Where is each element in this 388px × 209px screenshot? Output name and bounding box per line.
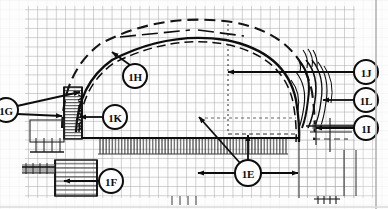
- floor-hatched-band: [98, 138, 288, 154]
- drawing-canvas: 1G1H1K1F1E1J1L1I: [0, 0, 388, 209]
- callout-label-1l: 1L: [360, 95, 372, 107]
- callout-1h[interactable]: 1H: [123, 64, 147, 88]
- callout-1l[interactable]: 1L: [354, 88, 378, 112]
- callout-label-1e: 1E: [242, 168, 254, 180]
- callout-1f[interactable]: 1F: [99, 169, 123, 193]
- lower-left-detail-cluster: [22, 163, 55, 174]
- foundation-block: [55, 160, 97, 196]
- lower-right-grid: [299, 140, 377, 198]
- callout-1i[interactable]: 1I: [354, 116, 378, 140]
- callout-1g[interactable]: 1G: [0, 98, 18, 122]
- callout-label-1g: 1G: [0, 105, 13, 117]
- callout-label-1i: 1I: [361, 123, 370, 135]
- callout-label-1j: 1J: [361, 67, 372, 79]
- technical-drawing-figure: 1G1H1K1F1E1J1L1I: [0, 0, 388, 209]
- callout-1e[interactable]: 1E: [235, 160, 261, 186]
- callout-1k[interactable]: 1K: [103, 105, 127, 129]
- callout-1j[interactable]: 1J: [354, 60, 378, 84]
- callout-label-1k: 1K: [108, 112, 122, 124]
- callout-label-1f: 1F: [105, 176, 117, 188]
- callout-label-1h: 1H: [128, 71, 142, 83]
